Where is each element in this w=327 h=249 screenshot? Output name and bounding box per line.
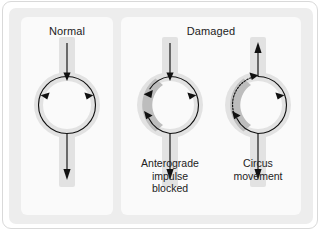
panel-heading-normal: Normal: [21, 25, 113, 37]
normal-conduction-svg: [27, 37, 107, 187]
panel-damaged: Damaged: [121, 17, 301, 215]
caption-anterograde-blocked: Anterograde impulse blocked: [127, 157, 213, 195]
diagram-stage: Normal: [9, 8, 313, 224]
diagram-normal: [27, 37, 107, 187]
panel-heading-damaged: Damaged: [121, 25, 301, 37]
caption-circus-movement: Circus movement: [215, 157, 301, 182]
figure-frame: Normal: [2, 1, 318, 229]
panel-normal: Normal: [21, 17, 113, 215]
